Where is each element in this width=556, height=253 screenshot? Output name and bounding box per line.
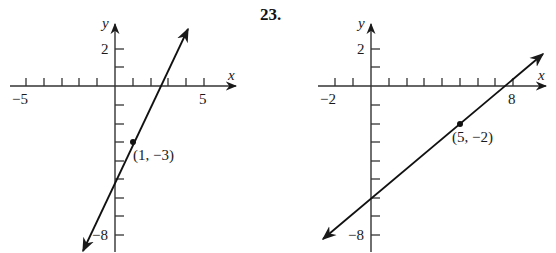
right-y-ticks	[371, 49, 380, 235]
diagram-canvas: 23.	[0, 0, 556, 253]
left-y-tick-label-min: −8	[92, 227, 108, 243]
right-graph-line	[323, 54, 543, 239]
right-x-axis-label: x	[537, 67, 545, 83]
left-x-tick-label-min: −5	[12, 91, 28, 107]
left-y-tick-label-max: 2	[101, 41, 109, 57]
right-y-axis-label: y	[356, 15, 365, 31]
right-point-label: (5, −2)	[452, 129, 493, 146]
right-x-ticks	[335, 78, 513, 86]
right-x-tick-label-min: −2	[320, 91, 336, 107]
left-y-axis-label: y	[100, 15, 109, 31]
left-graph-line	[83, 29, 188, 251]
left-point-marker	[130, 139, 136, 145]
left-x-tick-label-max: 5	[199, 91, 207, 107]
right-y-tick-label-min: −8	[348, 227, 364, 243]
left-graph: y x −5 5 2 −8 (1, −3)	[10, 15, 236, 252]
left-x-axis-label: x	[227, 67, 235, 83]
right-graph: y x −2 8 2 −8 (5, −2)	[318, 15, 546, 252]
right-y-tick-label-max: 2	[357, 41, 365, 57]
left-point-label: (1, −3)	[133, 147, 174, 164]
right-point-marker	[457, 121, 463, 127]
problem-number: 23.	[260, 5, 281, 24]
right-x-tick-label-max: 8	[508, 91, 516, 107]
left-y-ticks	[115, 49, 124, 235]
